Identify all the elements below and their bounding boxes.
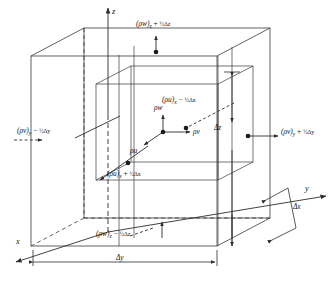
center-flux-rho-v: ρv [193, 128, 200, 135]
flux-left-operator: − [31, 126, 39, 135]
flux-left-base: (ρv) [17, 126, 29, 135]
flux-label-back: (ρu)x − ½Δx [162, 96, 196, 105]
dimension-label-dz: Δz [214, 124, 221, 131]
center-flux-rho-w: ρw [154, 104, 162, 111]
flux-back-operator: − [177, 95, 185, 104]
flux-back-delta: ½Δx [185, 97, 196, 103]
flux-back-base: (ρu) [162, 95, 174, 104]
axis-label-y: y [305, 185, 309, 193]
diagram-linework [0, 0, 334, 281]
flux-label-top: (ρw)z + ½Δz [136, 20, 170, 29]
flux-label-bottom: (ρw)z − ½Δz [96, 230, 130, 239]
dimension-label-dx: Δx [293, 203, 301, 210]
flux-label-right: (ρv)y + ½Δy [281, 128, 314, 137]
flux-top-base: (ρw) [136, 19, 149, 28]
center-flux-rho-u: ρu [130, 147, 137, 154]
flux-right-base: (ρv) [281, 127, 293, 136]
flux-right-operator: + [295, 127, 303, 136]
control-volume-figure: z y x (ρw)z + ½Δz (ρw)z − ½Δz (ρv)y − ½Δ… [0, 0, 334, 281]
axis-label-x: x [16, 238, 20, 246]
flux-label-left: (ρv)y − ½Δy [17, 127, 50, 136]
flux-front-base: (ρu) [107, 169, 119, 178]
flux-bottom-base: (ρw) [96, 229, 109, 238]
flux-top-delta: ½Δz [159, 21, 170, 27]
dimension-label-dy: Δy [113, 254, 127, 261]
flux-label-front: (ρu)x + ½Δx [107, 170, 141, 179]
flux-bottom-delta: ½Δz [119, 231, 130, 237]
flux-left-delta: ½Δy [39, 128, 50, 134]
axis-label-z: z [112, 8, 115, 16]
flux-front-delta: ½Δx [130, 171, 141, 177]
flux-front-operator: + [122, 169, 130, 178]
flux-right-delta: ½Δy [303, 129, 314, 135]
